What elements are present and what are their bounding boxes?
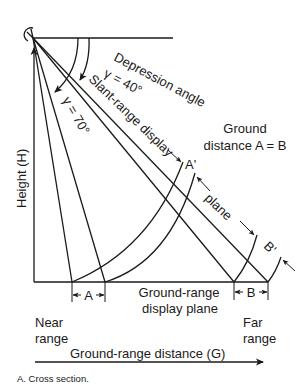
far-range-label-line1: Far xyxy=(243,315,263,330)
ground-distance-label-line1: Ground xyxy=(223,121,266,136)
gamma-70-label: γ = 70° xyxy=(59,94,92,137)
segment-a-dimension: A xyxy=(72,282,105,303)
antenna-icon xyxy=(24,28,33,41)
arc-a-near xyxy=(72,162,183,282)
height-axis-label: Height (H) xyxy=(14,149,29,208)
b-prime-pointer-arrow-2 xyxy=(283,260,295,271)
slant-range-cross-section-diagram: A B Depression angle γ = 40° γ = 70° Sla… xyxy=(0,0,305,390)
a-prime-label: A' xyxy=(185,157,196,172)
arc-a-far xyxy=(105,173,195,282)
ground-range-plane-label-line1: Ground-range xyxy=(139,285,220,300)
ground-distance-label-line2: distance A = B xyxy=(204,138,287,153)
b-prime-label: B' xyxy=(261,238,279,257)
ground-range-distance-label: Ground-range distance (G) xyxy=(70,346,225,361)
far-range-label-line2: range xyxy=(243,331,276,346)
b-prime-pointer-arrow-1 xyxy=(240,221,254,235)
figure-caption: A. Cross section. xyxy=(17,373,89,384)
near-range-label-line1: Near xyxy=(35,315,64,330)
segment-b-label: B xyxy=(247,285,256,300)
depression-arc-40-arrow xyxy=(80,38,89,80)
near-range-label-line2: range xyxy=(35,331,68,346)
arc-b-far xyxy=(268,257,281,282)
segment-b-dimension: B xyxy=(234,282,268,300)
far-ray-1 xyxy=(33,38,234,282)
a-prime-pointer-arrow-2 xyxy=(197,177,210,191)
ground-range-plane-label-line2: display plane xyxy=(142,301,218,316)
near-ray-1 xyxy=(33,38,72,282)
segment-a-label: A xyxy=(84,288,93,303)
